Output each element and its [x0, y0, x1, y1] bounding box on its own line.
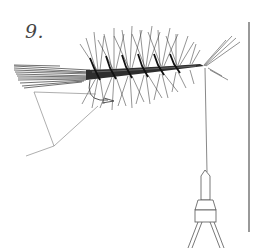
tying-thread: [205, 68, 207, 172]
pointer-lines: [26, 92, 98, 156]
fly-tying-illustration: [0, 0, 253, 248]
fly-head-fibers: [204, 36, 240, 80]
bobbin-holder: [188, 170, 224, 248]
fly-tail: [14, 65, 92, 88]
